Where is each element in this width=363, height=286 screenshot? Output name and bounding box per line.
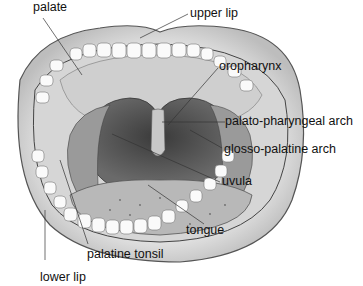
label-uvula: uvula bbox=[222, 174, 252, 188]
label-palatine-tonsil: palatine tonsil bbox=[87, 247, 163, 261]
label-upper-lip: upper lip bbox=[190, 6, 238, 20]
label-tongue: tongue bbox=[186, 223, 224, 237]
label-oropharynx: oropharynx bbox=[219, 59, 282, 73]
label-palato-pharyngeal-arch: palato-pharyngeal arch bbox=[225, 114, 353, 128]
label-lower-lip: lower lip bbox=[40, 270, 86, 284]
label-glosso-palatine-arch: glosso-palatine arch bbox=[224, 142, 336, 156]
label-palate: palate bbox=[33, 0, 67, 14]
uvula bbox=[151, 109, 165, 156]
